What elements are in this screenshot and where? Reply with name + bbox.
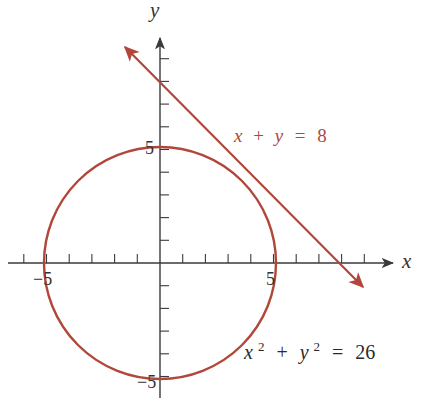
- eq-x: x: [233, 125, 243, 146]
- x-tick-label-pos5: 5: [266, 269, 275, 289]
- y-tick-label-neg5: −5: [137, 372, 156, 392]
- eq-x-exponent: 2: [258, 339, 265, 354]
- x-tick-label-neg5: −5: [33, 269, 52, 289]
- eq-plus: +: [276, 341, 287, 363]
- y-axis-ticks: [160, 59, 169, 377]
- eq-equals: =: [332, 341, 343, 363]
- eq-rhs: 26: [355, 341, 375, 363]
- eq-plus: +: [253, 125, 264, 146]
- y-axis-label: y: [148, 0, 160, 22]
- eq-y: y: [298, 341, 309, 364]
- eq-rhs: 8: [317, 125, 327, 146]
- x-axis-ticks: [24, 254, 365, 263]
- line-equation-label: x + y = 8: [233, 125, 327, 146]
- eq-equals: =: [295, 125, 306, 146]
- eq-y-exponent: 2: [314, 339, 321, 354]
- y-tick-label-pos5: 5: [145, 138, 154, 158]
- graph-figure: y x −5 5 5 −5 x + y = 8 x 2 + y 2 = 26: [0, 0, 425, 401]
- graph-canvas: y x −5 5 5 −5 x + y = 8 x 2 + y 2 = 26: [0, 0, 425, 401]
- x-axis-label: x: [401, 249, 412, 273]
- eq-y: y: [273, 125, 284, 146]
- eq-x: x: [243, 341, 253, 363]
- circle-equation-label: x 2 + y 2 = 26: [243, 333, 375, 364]
